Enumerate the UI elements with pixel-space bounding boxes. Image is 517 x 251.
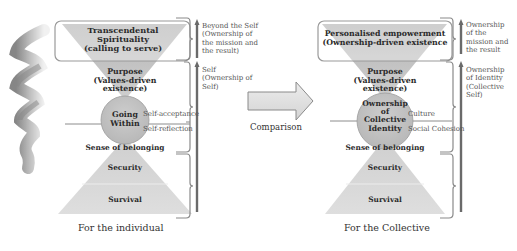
line: the result): [202, 47, 258, 55]
left-top-box-label: Transcendental Spirituality (calling to …: [58, 26, 188, 54]
right-caption: For the Collective: [344, 222, 430, 233]
left-survival-label: Survival: [95, 196, 155, 204]
line: of the: [466, 29, 508, 37]
line: (Ownership-driven existence: [318, 39, 452, 48]
line: Self: [202, 66, 252, 74]
right-purpose-label: Purpose (Values-driven existence): [335, 68, 435, 94]
line: Self): [202, 83, 252, 91]
right-top-box-label: Personalised empowerment (Ownership-driv…: [318, 30, 452, 47]
left-caption: For the individual: [78, 222, 164, 233]
line: the result: [466, 46, 508, 54]
right-circle-label: Ownership of Collective Identity: [355, 100, 415, 133]
right-belonging-label: Sense of belonging: [325, 144, 445, 152]
line: mission and: [466, 38, 508, 46]
line: Identity: [355, 125, 415, 133]
line: of Identity: [466, 74, 505, 82]
line: existence): [335, 85, 435, 94]
line: Ownership: [466, 66, 505, 74]
right-survival-label: Survival: [355, 196, 415, 204]
line: Beyond the Self: [202, 22, 258, 30]
right-side-label-lower: Ownership of Identity (Collective Self): [466, 66, 505, 100]
line: existence): [75, 85, 175, 94]
line: Self): [466, 91, 505, 99]
left-side-label-upper: Beyond the Self (Ownership of the missio…: [202, 22, 258, 56]
right-security-label: Security: [355, 164, 415, 172]
right-line-label-upper: Culture: [408, 110, 435, 118]
line: (calling to serve): [58, 44, 188, 53]
left-line-label-upper: Self-acceptance: [143, 110, 199, 118]
left-security-label: Security: [95, 164, 155, 172]
left-purpose-label: Purpose (Values-driven existence): [75, 68, 175, 94]
line: (Ownership of: [202, 74, 252, 82]
left-side-label-lower: Self (Ownership of Self): [202, 66, 252, 91]
left-line-label-lower: Self-reflection: [143, 125, 193, 133]
comparison-arrow-icon: [248, 82, 313, 120]
comparison-label: Comparison: [250, 122, 302, 132]
line: the mission and: [202, 39, 258, 47]
spiral-ribbon-icon: [16, 30, 44, 168]
left-belonging-label: Sense of belonging: [65, 144, 185, 152]
line: (Collective: [466, 83, 505, 91]
line: Ownership: [466, 21, 508, 29]
right-line-label-lower: Social Cohesion: [408, 125, 465, 133]
line: (Ownership of: [202, 30, 258, 38]
right-side-label-upper: Ownership of the mission and the result: [466, 21, 508, 55]
